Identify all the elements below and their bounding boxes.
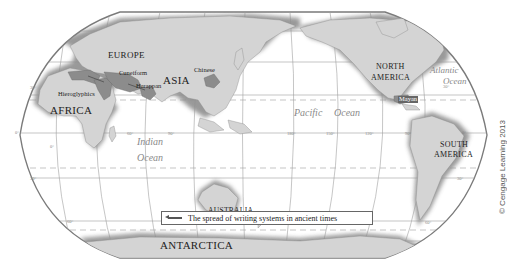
svg-text:60°: 60°	[425, 220, 432, 225]
svg-text:30°: 30°	[30, 85, 37, 90]
svg-text:0°: 0°	[462, 130, 466, 135]
label-atlantic-1: Atlantic	[430, 66, 459, 75]
svg-text:60°: 60°	[127, 131, 134, 136]
label-chinese: Chinese	[194, 67, 215, 74]
svg-text:60°: 60°	[67, 219, 74, 224]
antarctica	[86, 236, 416, 258]
svg-text:120°: 120°	[365, 131, 374, 136]
label-pacific-1: Pacific	[294, 108, 322, 118]
svg-text:90°: 90°	[405, 131, 412, 136]
label-north-america-2: AMERICA	[371, 74, 410, 82]
label-harappan: Harappan	[136, 83, 161, 90]
arrow-icon	[168, 217, 182, 219]
svg-text:150°: 150°	[326, 131, 335, 136]
label-cuneiform: Cuneiform	[119, 70, 147, 77]
label-africa: AFRICA	[50, 105, 92, 116]
svg-text:30°: 30°	[30, 176, 37, 181]
world-map: 30° 0° 30° 60° 0° 60° 90° 180° 150° 120°…	[0, 0, 507, 269]
svg-text:0°: 0°	[15, 130, 19, 135]
svg-text:90°: 90°	[168, 131, 175, 136]
label-south-america-1: SOUTH	[440, 141, 468, 149]
label-pacific-2: Ocean	[334, 108, 360, 118]
legend-text: The spread of writing systems in ancient…	[188, 214, 337, 223]
label-atlantic-2: Ocean	[443, 77, 467, 86]
label-indian-2: Ocean	[137, 153, 163, 163]
label-south-america-2: AMERICA	[434, 151, 473, 159]
svg-text:0°: 0°	[50, 144, 54, 149]
label-mayan: Mayan	[398, 96, 418, 103]
legend-box: The spread of writing systems in ancient…	[161, 211, 373, 225]
label-antarctica: ANTARCTICA	[160, 240, 233, 251]
label-hieroglyphics: Hieroglyphics	[58, 91, 95, 98]
svg-text:30°: 30°	[457, 176, 464, 181]
label-europe: EUROPE	[108, 51, 145, 60]
label-indian-1: Indian	[137, 137, 163, 147]
label-north-america-1: NORTH	[376, 63, 405, 71]
label-asia: ASIA	[163, 75, 190, 86]
svg-text:180°: 180°	[287, 131, 296, 136]
copyright-notice: © Cengage Learning 2013	[498, 120, 507, 214]
